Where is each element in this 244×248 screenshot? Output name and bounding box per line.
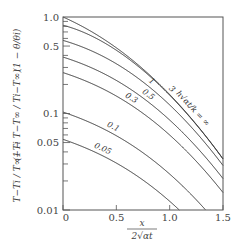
curve-label: 0.05 <box>93 141 113 157</box>
y-tick-label: 0.1 <box>43 108 59 119</box>
x-tick-label: 0.5 <box>108 212 124 223</box>
x-ticks: 00.51.01.5 <box>63 205 231 223</box>
x-axis-label: x 2√αt <box>127 218 157 241</box>
curve-H-inf <box>63 17 223 159</box>
curve-H-0_1 <box>63 112 205 210</box>
y-tick-label: 0.01 <box>37 205 59 216</box>
curve-H-1 <box>63 40 223 165</box>
curve-label: h√αt/k = ∞ <box>174 89 211 128</box>
x-tick-label: 1.0 <box>162 212 178 223</box>
x-label-numerator: x <box>139 218 144 228</box>
y-axis-label: T−Ti / T∞−Ti (1 − T−T∞ / Ti−T∞) (1 − θ/θ… <box>12 28 22 202</box>
x-tick-label: 0 <box>63 212 69 223</box>
y-tick-label: 1.0 <box>43 12 59 23</box>
curve-label: 3 <box>167 84 177 94</box>
y-label-mid: (1 − T−T∞ / Ti−T∞) <box>12 69 22 161</box>
curve-label: 0.5 <box>141 87 157 102</box>
y-tick-label: 0.05 <box>37 137 59 148</box>
x-tick-label: 1.5 <box>215 212 231 223</box>
y-tick-label: 0.5 <box>43 41 59 52</box>
curve-H-0_05 <box>63 139 179 210</box>
y-label-right: (1 − θ/θi) <box>12 28 22 71</box>
y-ticks: 0.010.050.10.51.0 <box>37 12 70 216</box>
x-label-denominator: 2√αt <box>130 231 153 241</box>
chart: 0.010.050.10.51.0 00.51.01.5 h√αt/k = ∞3… <box>0 0 244 248</box>
